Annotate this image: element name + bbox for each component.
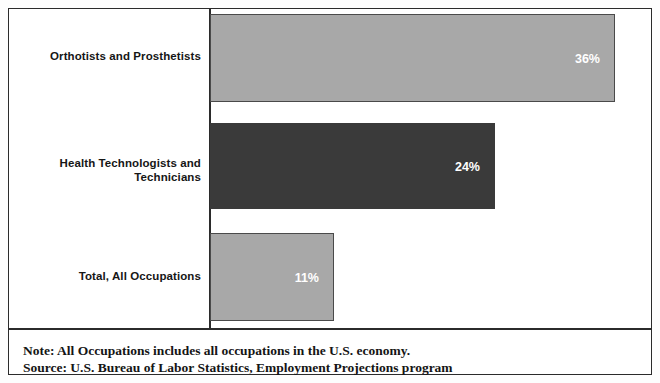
- bar-value-label-2: 11%: [295, 272, 319, 285]
- plot-region: Orthotists and Prosthetists 36% Health T…: [9, 9, 651, 328]
- bar-category-label-1-line1: Health Technologists and: [60, 157, 201, 169]
- bar-shape-0: 36%: [210, 14, 615, 102]
- bar-category-label-0-line1: Orthotists and Prosthetists: [50, 50, 201, 62]
- bar-value-label-1: 24%: [455, 161, 480, 174]
- bar-value-label-0: 36%: [575, 53, 600, 66]
- figure-frame: Orthotists and Prosthetists 36% Health T…: [8, 8, 652, 375]
- notes-divider: [9, 328, 651, 330]
- bar-category-label-0: Orthotists and Prosthetists: [17, 49, 201, 63]
- source-text: Source: U.S. Bureau of Labor Statistics,…: [23, 359, 643, 376]
- bar-category-label-2-line1: Total, All Occupations: [79, 270, 201, 282]
- bar-category-label-2: Total, All Occupations: [17, 269, 201, 283]
- bar-category-label-1: Health Technologists and Technicians: [17, 156, 201, 184]
- bar-shape-1: 24%: [210, 123, 495, 209]
- notes-block: Note: All Occupations includes all occup…: [23, 342, 643, 376]
- bar-shape-2: 11%: [210, 233, 334, 321]
- note-text: Note: All Occupations includes all occup…: [23, 342, 643, 359]
- bar-category-label-1-line2: Technicians: [134, 171, 201, 183]
- bar-chart-figure: Orthotists and Prosthetists 36% Health T…: [0, 0, 660, 383]
